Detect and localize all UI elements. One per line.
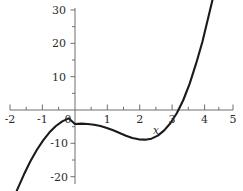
x-tick-label-2: 2 xyxy=(136,113,143,126)
x-tick-label-neg2: -2 xyxy=(5,113,16,126)
x-tick-label-5: 5 xyxy=(230,113,237,126)
y-tick-label-neg20: -20 xyxy=(50,171,68,184)
x-tick-label-neg1: -1 xyxy=(37,113,48,126)
y-tick-label-neg10: -10 xyxy=(50,137,68,150)
y-tick-label-10: 10 xyxy=(52,71,66,84)
x-axis-label: x xyxy=(153,124,159,136)
y-tick-label-30: 30 xyxy=(52,4,66,17)
plot-area: 30 20 10 -10 -20 -2 -1 0 1 2 3 4 5 x xyxy=(0,0,243,191)
function-curve xyxy=(11,0,215,191)
y-tick-label-20: 20 xyxy=(52,37,66,50)
x-tick-label-3: 3 xyxy=(169,113,176,126)
x-axis-major-ticks xyxy=(10,105,233,111)
cubic-function-graph: 30 20 10 -10 -20 -2 -1 0 1 2 3 4 5 x xyxy=(0,0,243,191)
x-tick-label-1: 1 xyxy=(104,113,111,126)
x-tick-label-4: 4 xyxy=(201,113,208,126)
x-tick-label-zero: 0 xyxy=(65,113,72,126)
